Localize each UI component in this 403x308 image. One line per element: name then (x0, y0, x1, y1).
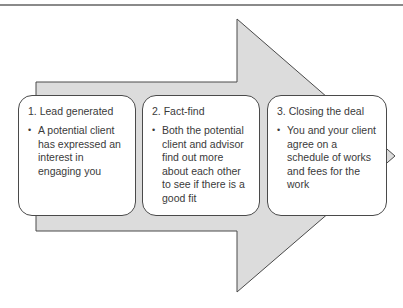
step-box-fact-find: 2. Fact-find • Both the potential client… (142, 95, 260, 216)
step-bullet: • Both the potential client and advisor … (152, 124, 251, 205)
step-box-closing-the-deal: 3. Closing the deal • You and your clien… (267, 95, 387, 216)
step-bullet: • You and your client agree on a schedul… (277, 124, 378, 192)
step-title: 1. Lead generated (28, 105, 127, 118)
step-description: You and your client agree on a schedule … (287, 124, 378, 192)
step-description: A potential client has expressed an inte… (38, 124, 127, 178)
bullet-icon: • (152, 124, 162, 205)
bullet-icon: • (28, 124, 38, 178)
step-title: 3. Closing the deal (277, 105, 378, 118)
step-title: 2. Fact-find (152, 105, 251, 118)
step-box-lead-generated: 1. Lead generated • A potential client h… (18, 95, 136, 216)
step-description: Both the potential client and advisor fi… (162, 124, 251, 205)
bullet-icon: • (277, 124, 287, 192)
step-bullet: • A potential client has expressed an in… (28, 124, 127, 178)
